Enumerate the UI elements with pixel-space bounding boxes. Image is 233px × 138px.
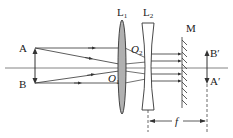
object-arrow-AB [33, 48, 38, 84]
label-M: M [186, 22, 196, 34]
diagram-canvas: A B L1 L2 O2 O1 M B′ A′ f [0, 0, 233, 138]
lens-L1 [118, 20, 126, 114]
label-A-prime: A′ [210, 75, 220, 87]
optics-diagram: A B L1 L2 O2 O1 M B′ A′ f [0, 0, 233, 138]
rays-from-B [35, 71, 119, 83]
label-L2: L2 [143, 6, 154, 20]
label-f: f [175, 115, 180, 127]
label-B-prime: B′ [210, 47, 220, 59]
label-L1: L1 [117, 6, 128, 20]
label-A: A [19, 42, 27, 54]
mirror-M [182, 37, 187, 108]
rays-to-mirror [150, 54, 180, 81]
rays-from-A [35, 48, 119, 64]
label-O2: O2 [131, 43, 143, 57]
lens-L2 [142, 23, 154, 110]
label-B: B [19, 78, 26, 90]
image-arrow-BA [205, 50, 210, 84]
